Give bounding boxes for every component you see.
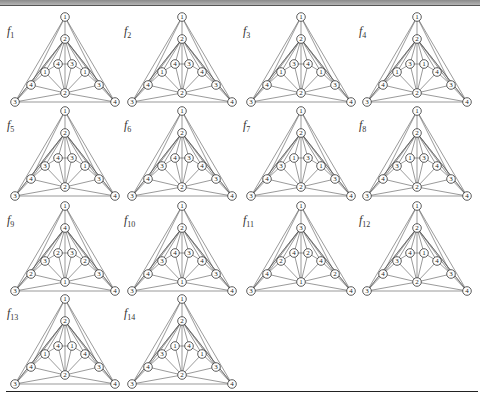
graph-node-mid-right: 4 xyxy=(198,68,207,77)
graph-edge xyxy=(65,274,99,282)
graph-node-mid-right: 4 xyxy=(433,162,442,171)
graph-node-inner-left: 4 xyxy=(54,60,63,69)
graph-node-mid-left: 2 xyxy=(277,257,286,266)
node-label: 1 xyxy=(43,350,47,358)
graph-edge xyxy=(132,133,182,196)
graph-node-inner-left: 4 xyxy=(54,342,63,351)
node-label: 2 xyxy=(63,371,67,379)
graph-edge xyxy=(31,367,65,375)
node-label: 1 xyxy=(200,350,204,358)
graph-edge xyxy=(182,39,232,102)
graph-node-upper: 2 xyxy=(61,317,70,326)
graph-node-outer-left: 4 xyxy=(27,363,36,372)
graph-drawing: 12413443234 xyxy=(352,197,480,297)
graph-edge xyxy=(251,228,301,291)
graph-node-mid-left: 3 xyxy=(158,257,167,266)
node-label: 4 xyxy=(29,81,33,89)
node-label: 1 xyxy=(180,13,184,21)
graph-edge xyxy=(182,228,232,291)
node-label: 1 xyxy=(83,68,87,76)
graph-node-center: 2 xyxy=(178,183,187,192)
node-label: 4 xyxy=(56,60,60,68)
graph-edge xyxy=(182,321,232,384)
graph-node-bottom-left: 3 xyxy=(363,287,372,296)
graph-node-outer-right: 3 xyxy=(95,363,104,372)
node-label: 1 xyxy=(299,107,303,115)
graph-node-outer-left: 4 xyxy=(263,81,272,90)
graph-node-upper: 2 xyxy=(61,35,70,44)
graph-node-upper: 2 xyxy=(413,35,422,44)
graph-drawing: 12433143234 xyxy=(0,102,130,202)
graph-node-upper: 2 xyxy=(413,224,422,233)
node-label: 3 xyxy=(214,175,218,183)
node-label: 3 xyxy=(214,363,218,371)
graph-node-top: 1 xyxy=(61,13,70,22)
node-label: 3 xyxy=(365,287,369,295)
node-label: 2 xyxy=(180,371,184,379)
node-label: 1 xyxy=(180,107,184,115)
graph-node-outer-right: 3 xyxy=(95,175,104,184)
node-label: 4 xyxy=(265,81,269,89)
node-label: 3 xyxy=(160,162,164,170)
node-label: 2 xyxy=(415,89,419,97)
node-label: 4 xyxy=(319,257,323,265)
graph-node-center: 2 xyxy=(297,89,306,98)
graph-edge xyxy=(31,179,65,187)
node-label: 1 xyxy=(180,295,184,303)
graph-node-outer-right: 2 xyxy=(331,270,340,279)
node-label: 3 xyxy=(449,175,453,183)
node-label: 2 xyxy=(299,89,303,97)
node-label: 4 xyxy=(146,81,150,89)
graph-edge xyxy=(417,85,451,93)
node-label: 3 xyxy=(449,81,453,89)
graph-node-bottom-right: 4 xyxy=(463,287,472,296)
graph-node-outer-right: 3 xyxy=(212,81,221,90)
graph-node-mid-left: 1 xyxy=(277,68,286,77)
graph-edge xyxy=(182,274,216,282)
graph-node-outer-left: 4 xyxy=(27,81,36,90)
graph-node-outer-right: 3 xyxy=(447,81,456,90)
node-label: 1 xyxy=(415,202,419,210)
graph-edge xyxy=(132,228,182,291)
graph-edge xyxy=(65,39,115,102)
graph-node-mid-left: 3 xyxy=(41,162,50,171)
node-label: 3 xyxy=(299,224,303,232)
node-label: 4 xyxy=(173,154,177,162)
graph-edge xyxy=(15,321,65,384)
graph-node-inner-left: 4 xyxy=(171,249,180,258)
graph-node-inner-right: 3 xyxy=(185,249,194,258)
node-label: 4 xyxy=(381,175,385,183)
node-label: 4 xyxy=(435,257,439,265)
graph-node-upper: 2 xyxy=(178,224,187,233)
graph-node-outer-left: 4 xyxy=(144,270,153,279)
node-label: 3 xyxy=(249,287,253,295)
graph-drawing: 12411443234 xyxy=(0,290,130,390)
node-label: 3 xyxy=(306,154,310,162)
graph-node-center: 2 xyxy=(61,89,70,98)
graph-edge xyxy=(182,367,216,375)
graph-node-mid-left: 3 xyxy=(393,162,402,171)
graph-node-mid-left: 1 xyxy=(158,68,167,77)
node-label: 4 xyxy=(230,380,234,388)
node-label: 2 xyxy=(63,89,67,97)
graph-edge xyxy=(65,133,115,196)
node-label: 4 xyxy=(408,249,412,257)
node-label: 4 xyxy=(146,363,150,371)
graph-node-outer-left: 4 xyxy=(379,270,388,279)
node-label: 1 xyxy=(63,278,67,286)
node-label: 2 xyxy=(180,89,184,97)
node-label: 1 xyxy=(180,278,184,286)
node-label: 4 xyxy=(29,363,33,371)
graph-edge xyxy=(65,85,99,93)
graph-edge xyxy=(148,367,182,375)
node-label: 1 xyxy=(319,68,323,76)
node-label: 3 xyxy=(333,81,337,89)
node-label: 1 xyxy=(173,342,177,350)
node-label: 4 xyxy=(265,270,269,278)
graph-node-center: 2 xyxy=(61,371,70,380)
graph-node-top: 1 xyxy=(297,202,306,211)
graph-node-mid-left: 3 xyxy=(158,162,167,171)
node-label: 4 xyxy=(200,162,204,170)
graph-node-upper: 2 xyxy=(297,35,306,44)
graph-edge xyxy=(417,179,451,187)
